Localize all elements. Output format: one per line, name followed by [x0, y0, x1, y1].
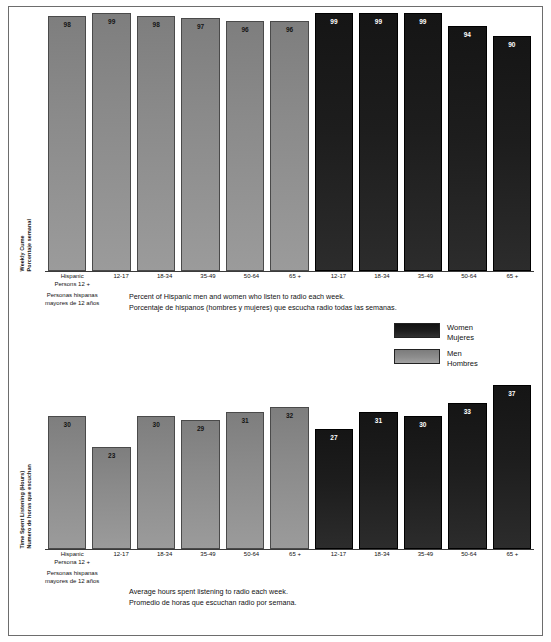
y-axis-label-es: Porcentaje semanal: [26, 219, 33, 271]
bar-men: 96: [226, 21, 264, 271]
time-spent-axis-line: [45, 549, 534, 550]
bar-value-label: 32: [271, 412, 307, 420]
bar-women: 27: [315, 429, 353, 549]
x-tick-line1: 65 +: [289, 273, 301, 279]
x-tick-label: HispanicPersona 12 +Personas hispanasmay…: [45, 551, 99, 585]
bar-column: 32: [267, 385, 311, 549]
legend: Women Mujeres Men Hombres: [394, 323, 478, 375]
bar-column: 96: [267, 13, 311, 271]
bar-women: 37: [493, 385, 531, 549]
bar-value-label: 33: [449, 408, 485, 416]
x-tick-label: 18-34: [143, 551, 186, 585]
bar-value-label: 98: [49, 21, 85, 29]
bar-men: 97: [181, 18, 219, 271]
x-tick-line1: 35-49: [418, 273, 433, 279]
bar-men: 96: [270, 21, 308, 271]
bar-women: 90: [493, 36, 531, 271]
x-tick-line1: Hispanic: [61, 551, 84, 557]
bar-value-label: 99: [316, 18, 352, 26]
bar-value-label: 30: [138, 421, 174, 429]
x-tick-label: HispanicPersons 12 +Personas hispanasmay…: [45, 273, 99, 307]
bar-column: 90: [490, 13, 534, 271]
caption-es: Porcentaje de hispanos (hombres y mujere…: [129, 303, 397, 314]
x-tick-line1: 35-49: [418, 551, 433, 557]
legend-label-men: Men Hombres: [447, 349, 478, 368]
bar-men: 30: [137, 416, 175, 549]
x-tick-line1: 50-64: [461, 551, 476, 557]
x-tick-sub2: mayores de 12 años: [45, 300, 99, 308]
caption-en: Percent of Hispanic men and women who li…: [129, 292, 345, 301]
time-spent-plot-area: 3023302931322731303337: [45, 385, 534, 549]
bar-column: 97: [178, 13, 222, 271]
x-tick-line1: 12-17: [113, 551, 128, 557]
x-tick-sub1: Personas hispanas: [45, 292, 99, 300]
y-axis-label-es: Numero de horas que escuchan: [26, 464, 33, 549]
legend-swatch-women-icon: [394, 323, 440, 338]
bar-value-label: 29: [182, 425, 218, 433]
bar-value-label: 96: [271, 26, 307, 34]
bar-value-label: 31: [360, 417, 396, 425]
time-spent-caption: Average hours spent listening to radio e…: [129, 587, 296, 608]
x-tick-line1: 65 +: [506, 273, 518, 279]
x-tick-line1: 35-49: [200, 273, 215, 279]
bar-column: 23: [89, 385, 133, 549]
bar-value-label: 96: [227, 26, 263, 34]
bar-column: 37: [490, 385, 534, 549]
legend-label-women: Women Mujeres: [447, 323, 474, 342]
bar-column: 99: [89, 13, 133, 271]
bar-men: 98: [48, 16, 86, 271]
x-tick-label: 35-49: [404, 273, 447, 307]
caption-en: Average hours spent listening to radio e…: [129, 587, 288, 596]
bar-column: 96: [223, 13, 267, 271]
bar-value-label: 90: [494, 41, 530, 49]
y-axis-label-en: Time Spent Listening (Hours): [19, 464, 26, 549]
x-tick-line2: Persons 12 +: [45, 281, 99, 289]
bar-value-label: 31: [227, 417, 263, 425]
x-tick-label: 65 +: [491, 273, 534, 307]
legend-label-men-es: Hombres: [447, 359, 478, 369]
weekly-cume-chart: Weekly Cume Porcentaje semanal 989998979…: [9, 13, 542, 271]
x-tick-line1: 18-34: [374, 551, 389, 557]
x-tick-sub2: mayores de 12 años: [45, 578, 99, 586]
bar-value-label: 30: [49, 421, 85, 429]
bar-column: 30: [134, 385, 178, 549]
legend-item-women: Women Mujeres: [394, 323, 478, 342]
y-axis-label-en: Weekly Cume: [19, 219, 26, 271]
bar-column: 30: [401, 385, 445, 549]
x-tick-label: 12-17: [99, 551, 142, 585]
x-tick-line1: 12-17: [331, 273, 346, 279]
bar-value-label: 99: [93, 18, 129, 26]
bar-women: 99: [359, 13, 397, 271]
time-spent-x-axis: HispanicPersona 12 +Personas hispanasmay…: [45, 551, 534, 585]
legend-label-men-en: Men: [447, 349, 478, 359]
x-tick-line1: 35-49: [200, 551, 215, 557]
x-tick-label: 65 +: [273, 551, 316, 585]
bar-column: 27: [312, 385, 356, 549]
bar-men: 32: [270, 407, 308, 549]
x-tick-line1: 12-17: [331, 551, 346, 557]
bar-value-label: 37: [494, 390, 530, 398]
bar-column: 30: [45, 385, 89, 549]
bar-column: 31: [223, 385, 267, 549]
bar-women: 30: [404, 416, 442, 549]
bar-value-label: 23: [93, 452, 129, 460]
legend-label-women-es: Mujeres: [447, 333, 474, 343]
bar-column: 33: [445, 385, 489, 549]
x-tick-label: 65 +: [491, 551, 534, 585]
bar-women: 33: [448, 403, 486, 549]
bar-value-label: 30: [405, 421, 441, 429]
time-spent-y-axis-label: Time Spent Listening (Hours) Numero de h…: [19, 464, 33, 549]
bar-column: 98: [134, 13, 178, 271]
x-tick-sub1: Personas hispanas: [45, 570, 99, 578]
bar-men: 30: [48, 416, 86, 549]
bar-column: 29: [178, 385, 222, 549]
bar-men: 31: [226, 412, 264, 549]
bar-women: 99: [404, 13, 442, 271]
bar-value-label: 94: [449, 31, 485, 39]
x-tick-line2: Persona 12 +: [45, 559, 99, 567]
bar-value-label: 97: [182, 23, 218, 31]
x-tick-label: 35-49: [186, 551, 229, 585]
bar-column: 99: [356, 13, 400, 271]
x-tick-label: 18-34: [360, 551, 403, 585]
x-tick-label: 50-64: [230, 551, 273, 585]
